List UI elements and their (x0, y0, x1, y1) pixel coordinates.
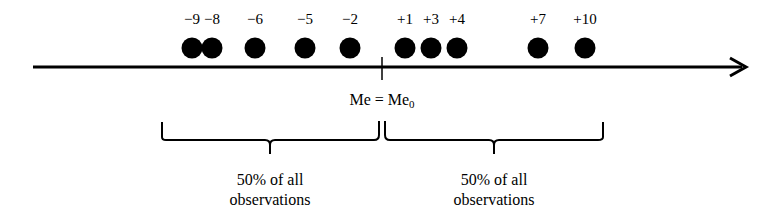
left-group-label-line2: observations (230, 190, 311, 210)
median-label: Me = Me0 (349, 91, 414, 110)
data-point-dot (528, 38, 549, 59)
left-brace (162, 121, 379, 154)
data-point-label: +10 (573, 12, 596, 27)
data-point-label: +3 (423, 12, 439, 27)
right-group-label: 50% of all observations (454, 170, 535, 210)
data-point-label: −6 (247, 12, 263, 27)
data-point-dot (182, 38, 203, 59)
data-point-dot (340, 38, 361, 59)
right-group-label-line1: 50% of all (454, 170, 535, 190)
data-point-dot (395, 38, 416, 59)
data-point-label: −8 (204, 12, 220, 27)
data-point-label: +4 (449, 12, 465, 27)
data-point-label: −9 (184, 12, 200, 27)
data-point-label: +7 (530, 12, 546, 27)
data-points (182, 38, 596, 59)
data-point-dot (295, 38, 316, 59)
data-point-dot (245, 38, 266, 59)
left-group-label-line1: 50% of all (230, 170, 311, 190)
median-label-subscript: 0 (409, 98, 415, 110)
data-point-dot (575, 38, 596, 59)
right-group-label-line2: observations (454, 190, 535, 210)
data-point-dot (202, 38, 223, 59)
median-label-text: Me = Me (349, 91, 409, 108)
left-group-label: 50% of all observations (230, 170, 311, 210)
data-point-dot (421, 38, 442, 59)
data-point-label: −2 (342, 12, 358, 27)
data-point-label: −5 (297, 12, 313, 27)
right-brace (385, 121, 603, 154)
data-point-label: +1 (397, 12, 413, 27)
data-point-dot (447, 38, 468, 59)
